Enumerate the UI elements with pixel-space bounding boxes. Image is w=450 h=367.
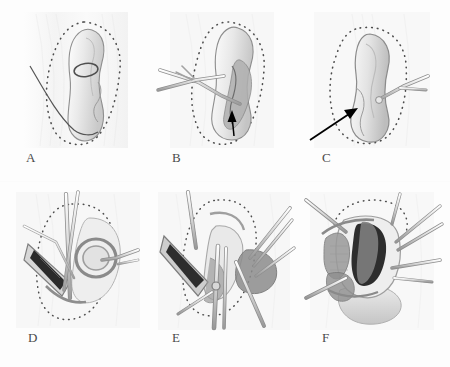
panel-b: [152, 4, 292, 154]
panel-f: [300, 186, 444, 334]
panel-e: [150, 186, 298, 334]
organ-body-a: [68, 29, 104, 141]
figure-container: A: [0, 0, 450, 367]
panel-label-f: F: [322, 330, 330, 346]
panel-a: [6, 4, 146, 154]
panel-label-e: E: [172, 330, 180, 346]
row-divider: [0, 181, 450, 182]
panel-c: [300, 4, 444, 154]
panel-label-a: A: [26, 150, 36, 166]
panel-label-c: C: [322, 150, 331, 166]
panel-label-b: B: [172, 150, 181, 166]
clamp-hinge-e: [212, 282, 220, 290]
panel-label-d: D: [28, 330, 38, 346]
panel-d: [6, 186, 146, 334]
